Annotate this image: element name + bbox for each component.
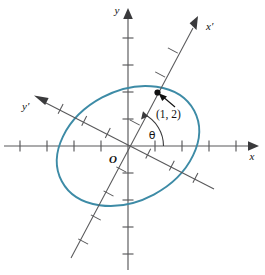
y-prime-tick xyxy=(193,173,198,183)
theta-label: θ xyxy=(149,129,156,142)
rotated-axes-ellipse-diagram: x y x′ y′ O θ (1, 2) xyxy=(0,0,265,275)
x-prime-tick xyxy=(130,120,140,125)
y-axis-group xyxy=(123,8,134,270)
y-prime-tick xyxy=(82,116,87,126)
y-axis-label: y xyxy=(114,4,120,16)
y-prime-axis-label: y′ xyxy=(21,100,30,112)
y-prime-tick xyxy=(146,149,151,159)
y-prime-tick xyxy=(169,161,174,171)
y-prime-tick xyxy=(58,104,63,114)
y-prime-tick xyxy=(105,128,110,138)
arrow-up-icon xyxy=(123,8,133,19)
origin-label: O xyxy=(109,153,117,165)
x-prime-axis-group xyxy=(71,16,198,258)
x-axis-group xyxy=(4,141,259,152)
x-prime-axis-label: x′ xyxy=(205,20,214,32)
point-label: (1, 2) xyxy=(156,108,181,121)
diagram-figure: x y x′ y′ O θ (1, 2) xyxy=(0,0,265,275)
x-prime-tick xyxy=(155,72,165,77)
x-prime-tick xyxy=(168,48,178,53)
plotted-point-group xyxy=(154,89,175,107)
x-prime-axis-line xyxy=(71,28,193,258)
x-axis-label: x xyxy=(249,150,255,162)
arrow-upright-icon xyxy=(190,16,198,30)
